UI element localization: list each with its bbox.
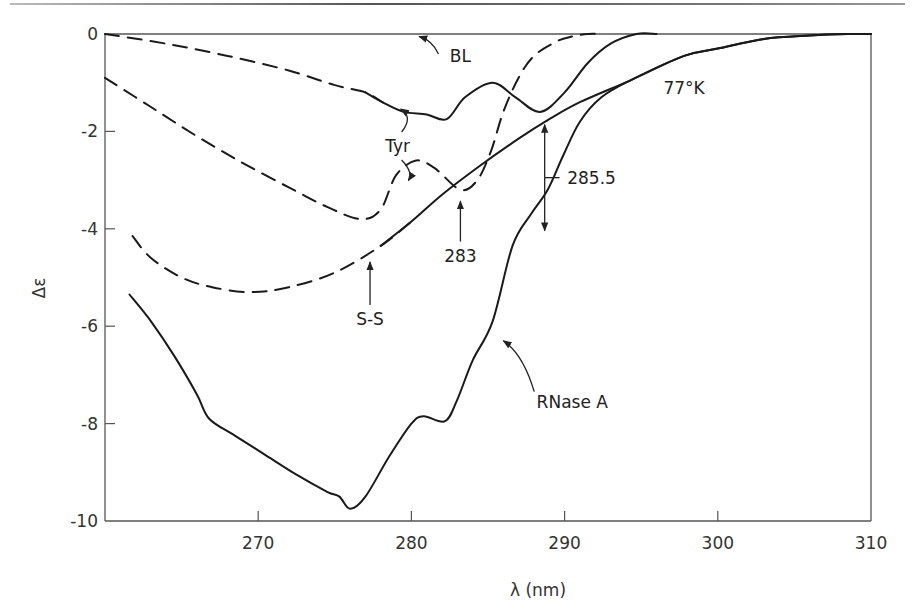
annotation-label-tyr: Tyr	[384, 136, 410, 156]
annotation-label-bl: BL	[450, 46, 472, 66]
series-line-tyr-upper-dashed	[105, 34, 382, 102]
axes: 2702802903003100-2-4-6-8-10	[70, 24, 887, 553]
annotation-arrow-rnase-a	[503, 341, 534, 392]
annotation-label-s-s: S-S	[356, 309, 384, 329]
y-tick-label: -2	[81, 121, 98, 141]
cd-spectrum-chart: 2702802903003100-2-4-6-8-10 BLTyr283S-S2…	[0, 0, 915, 605]
y-axis-title: Δε	[29, 278, 49, 299]
x-tick-label: 270	[242, 533, 274, 553]
series-group	[105, 33, 871, 509]
annotation-label-285-5: 285.5	[567, 168, 616, 188]
y-tick-label: 0	[87, 24, 98, 44]
annotation-label-283: 283	[444, 246, 476, 266]
y-tick-label: -4	[81, 219, 98, 239]
x-tick-label: 290	[548, 533, 580, 553]
y-tick-label: -6	[81, 316, 98, 336]
x-axis-title: λ (nm)	[510, 580, 566, 600]
annotation-arrow-bl	[419, 36, 438, 53]
series-line-tyr-lower	[105, 34, 603, 219]
x-tick-label: 300	[702, 533, 734, 553]
series-line-tyr-upper-solid	[365, 33, 656, 120]
annotation-label-rnase-a: RNase A	[537, 392, 609, 412]
annotation-label-77-k: 77°K	[663, 78, 705, 98]
x-tick-label: 310	[855, 533, 887, 553]
x-tick-label: 280	[395, 533, 427, 553]
y-tick-label: -10	[70, 511, 98, 531]
y-tick-label: -8	[81, 414, 98, 434]
series-line-rnase-a	[130, 34, 872, 509]
